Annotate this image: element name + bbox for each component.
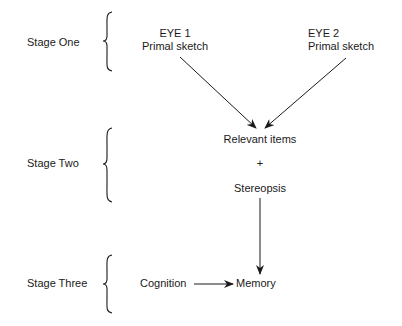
eye1-node: EYE 1 Primal sketch <box>142 27 208 53</box>
stereopsis-node: Stereopsis <box>234 182 286 195</box>
arrow-eye1-to-relevant <box>180 57 256 128</box>
relevant-items-node: Relevant items <box>224 133 297 146</box>
eye2-title: EYE 2 <box>308 27 374 40</box>
arrow-eye2-to-relevant <box>265 58 346 128</box>
eye2-node: EYE 2 Primal sketch <box>308 27 374 53</box>
stage-one-label: Stage One <box>27 36 80 49</box>
memory-node: Memory <box>236 277 276 290</box>
stage-two-label: Stage Two <box>27 157 79 170</box>
stage-three-brace <box>103 255 112 313</box>
stage-three-label: Stage Three <box>27 277 87 290</box>
cognition-node: Cognition <box>140 277 186 290</box>
stage-one-brace <box>103 12 112 71</box>
stage-two-brace <box>103 128 112 202</box>
eye1-subtitle: Primal sketch <box>142 40 208 53</box>
eye2-subtitle: Primal sketch <box>308 40 374 53</box>
plus-sign: + <box>257 157 263 170</box>
eye1-title: EYE 1 <box>142 27 208 40</box>
